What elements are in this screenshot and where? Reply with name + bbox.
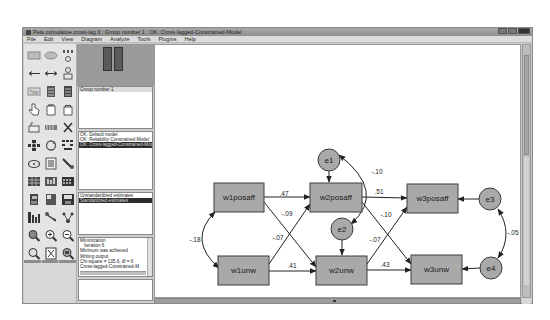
navigation-panel: Group number 1 OK: Default model OK: Rel… — [76, 44, 153, 303]
group-item[interactable]: Group number 1 — [79, 87, 152, 92]
menu-tools[interactable]: Tools — [138, 36, 151, 42]
variable-w2posaff[interactable]: w2posaff — [310, 183, 362, 212]
zoom-in-icon[interactable] — [42, 226, 59, 244]
touch-up-icon[interactable] — [59, 154, 76, 172]
tool-palette: Title — [24, 44, 76, 260]
error-e1[interactable]: e1 — [318, 149, 340, 171]
view-text-icon[interactable] — [42, 190, 59, 208]
path-e4-w3unw[interactable] — [462, 268, 480, 269]
coef-cov-e3-e4: -.05 — [507, 229, 519, 236]
zoom-in-area-icon[interactable] — [25, 226, 42, 244]
groups-panel: Group number 1 — [78, 86, 153, 129]
scrollbar-corner — [522, 298, 531, 304]
app-icon — [26, 30, 31, 35]
drag-properties-icon[interactable] — [42, 208, 59, 226]
rotate-indicators-icon[interactable] — [42, 136, 59, 154]
coef-w1posaff-w2posaff: .47 — [279, 190, 288, 197]
add-unique-variable-icon[interactable] — [59, 64, 76, 82]
variable-w1posaff[interactable]: w1posaff — [214, 183, 264, 212]
minimize-button[interactable] — [498, 28, 507, 34]
svg-text:w2unw: w2unw — [328, 266, 354, 275]
move-objects-icon[interactable] — [42, 118, 59, 136]
draw-unobserved-variable-icon[interactable] — [42, 46, 59, 64]
menu-diagram[interactable]: Diagram — [81, 36, 102, 42]
path-diagram-view-toggle — [77, 44, 154, 86]
duplicate-objects-icon[interactable] — [25, 118, 42, 136]
menu-help[interactable]: Help — [184, 36, 195, 42]
variable-w3posaff[interactable]: w3posaff — [407, 184, 458, 213]
deselect-all-icon[interactable] — [59, 100, 76, 118]
variable-w1unw[interactable]: w1unw — [218, 256, 269, 285]
files-panel — [78, 279, 153, 301]
menu-plugins[interactable]: Plugins — [158, 36, 176, 42]
object-properties-icon[interactable] — [25, 208, 42, 226]
covariance-e3-e4[interactable] — [498, 209, 506, 258]
draw-covariance-icon[interactable] — [42, 64, 59, 82]
models-panel: OK: Default model OK: Reliability-Constr… — [78, 131, 153, 190]
svg-text:w2posaff: w2posaff — [319, 193, 353, 202]
coef-w2posaff-w3posaff: .51 — [374, 188, 383, 195]
scroll-icon[interactable] — [42, 154, 59, 172]
svg-text:Title: Title — [29, 88, 38, 94]
output-vertical-scrollbar[interactable] — [147, 238, 152, 276]
menu-view[interactable]: View — [61, 36, 73, 42]
maximize-button[interactable] — [508, 28, 517, 34]
svg-text:w1posaff: w1posaff — [222, 193, 256, 202]
canvas-horizontal-scrollbar[interactable] — [154, 298, 521, 304]
vertical-scroll-track[interactable] — [524, 157, 529, 285]
svg-text:e2: e2 — [338, 225, 347, 234]
view-input-diagram-button[interactable] — [103, 47, 112, 71]
coef-w2posaff-w3unw: -.10 — [380, 211, 392, 218]
list-variables-in-dataset-icon[interactable] — [59, 82, 76, 100]
output-log-panel: Minimization Iteration 6 Minimum was ach… — [78, 237, 153, 277]
menu-edit[interactable]: Edit — [44, 36, 53, 42]
coef-cov-w1posaff-w1unw: -.18 — [189, 236, 201, 243]
preserve-symmetries-icon[interactable] — [59, 208, 76, 226]
reflect-indicators-icon[interactable] — [59, 136, 76, 154]
close-button[interactable] — [518, 28, 530, 34]
amos-window: Pets cumulative cross-lag 3 : Group numb… — [22, 27, 533, 304]
covariance-w1posaff-w1unw[interactable] — [202, 212, 219, 268]
variable-w2unw[interactable]: w2unw — [316, 256, 367, 285]
svg-text:e4: e4 — [487, 264, 496, 273]
menu-bar: File Edit View Diagram Analyze Tools Plu… — [23, 36, 532, 43]
error-e3[interactable]: e3 — [479, 188, 501, 210]
view-output-diagram-button[interactable] — [114, 47, 123, 71]
menu-file[interactable]: File — [27, 36, 36, 42]
draw-path-icon[interactable] — [25, 64, 42, 82]
variable-w3unw[interactable]: w3unw — [411, 255, 462, 284]
path-diagram-canvas[interactable]: w1posaff w2posaff w3posaff w1unw w2unw w… — [154, 44, 521, 298]
draw-observed-variable-icon[interactable] — [25, 46, 42, 64]
error-e4[interactable]: e4 — [480, 257, 502, 279]
error-e2[interactable]: e2 — [331, 218, 353, 240]
select-one-object-icon[interactable] — [25, 100, 42, 118]
output-horizontal-scrollbar[interactable] — [80, 271, 146, 275]
list-variables-in-model-icon[interactable] — [42, 82, 59, 100]
canvas-vertical-scrollbar[interactable] — [522, 44, 531, 298]
change-shape-icon[interactable] — [25, 136, 42, 154]
coef-w1unw-w2posaff: -.07 — [272, 234, 284, 241]
copy-to-clipboard-icon[interactable] — [25, 190, 42, 208]
move-parameter-values-icon[interactable] — [25, 154, 42, 172]
path-w2posaff-w3posaff[interactable] — [362, 197, 407, 198]
title-icon[interactable]: Title — [25, 82, 42, 100]
estimates-panel: Unstandardized estimates Standardized es… — [78, 192, 153, 235]
coef-cov-e1-e2: -.10 — [371, 168, 383, 175]
menu-analyze[interactable]: Analyze — [110, 36, 130, 42]
standardized-estimates-item[interactable]: Standardized estimates — [79, 198, 152, 203]
output-line: Cross-lagged-Constrained-M — [79, 264, 152, 269]
zoom-out-icon[interactable] — [59, 226, 76, 244]
coef-w1posaff-w2unw: -.09 — [281, 210, 293, 217]
draw-indicator-variable-icon[interactable] — [59, 46, 76, 64]
calculate-estimates-icon[interactable] — [59, 172, 76, 190]
analysis-properties-icon[interactable] — [42, 172, 59, 190]
select-all-objects-icon[interactable] — [42, 100, 59, 118]
erase-objects-icon[interactable] — [59, 118, 76, 136]
model-item-cross-lagged[interactable]: OK: Cross-lagged-Constrained-Model — [79, 142, 152, 147]
data-files-icon[interactable] — [25, 172, 42, 190]
save-diagram-icon[interactable] — [59, 190, 76, 208]
vertical-scroll-thumb[interactable] — [524, 55, 529, 155]
coef-w1unw-w2unw: .41 — [287, 262, 296, 269]
horizontal-scroll-grip[interactable] — [333, 300, 336, 302]
title-bar: Pets cumulative cross-lag 3 : Group numb… — [23, 28, 532, 36]
